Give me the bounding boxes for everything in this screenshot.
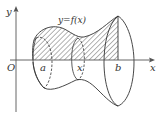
point-b-label: b bbox=[115, 62, 121, 73]
origin-label: O bbox=[7, 62, 15, 73]
point-a-label: a bbox=[40, 62, 46, 73]
x-axis-label: x bbox=[150, 62, 156, 73]
solid-of-revolution-diagram: y x O a x b y=f(x) bbox=[0, 0, 159, 123]
point-x-label: x bbox=[77, 62, 83, 73]
y-axis-label: y bbox=[5, 6, 12, 17]
curve-label: y=f(x) bbox=[57, 15, 87, 25]
